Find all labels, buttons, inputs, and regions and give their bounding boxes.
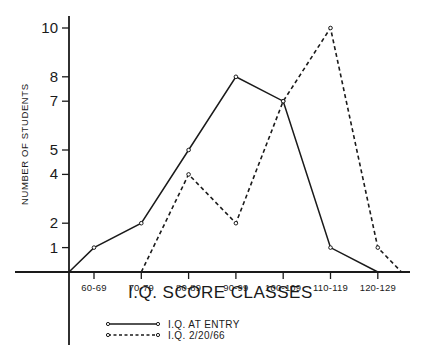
- x-tick-label: 110-119: [313, 282, 348, 293]
- y-axis-ticks: 12457810: [41, 19, 69, 256]
- legend-label: I.Q. 2/20/66: [168, 330, 225, 341]
- x-axis-title: I.Q. SCORE CLASSES: [128, 283, 313, 302]
- legend-marker: [106, 322, 109, 325]
- y-axis-title: NUMBER OF STUDENTS: [19, 83, 30, 205]
- x-tick-label: 120-129: [360, 282, 396, 293]
- y-tick-label: 2: [50, 214, 58, 231]
- line-chart: 12457810 60-6970-7980-8990-99100-109110-…: [0, 0, 422, 354]
- y-tick-label: 5: [50, 141, 58, 158]
- data-point-marker: [329, 246, 333, 250]
- legend-marker: [156, 333, 159, 336]
- series-lines: [69, 26, 401, 272]
- data-point-marker: [329, 26, 333, 30]
- series-line-iq-at-entry: [69, 77, 378, 272]
- x-tick-label: 60-69: [81, 282, 106, 293]
- data-point-marker: [281, 99, 285, 103]
- y-tick-label: 1: [50, 239, 58, 256]
- data-point-marker: [234, 75, 238, 79]
- legend-marker: [156, 322, 159, 325]
- data-point-marker: [234, 221, 238, 225]
- data-point-marker: [187, 173, 191, 177]
- data-point-marker: [92, 246, 96, 250]
- y-tick-label: 8: [50, 68, 58, 85]
- y-tick-label: 4: [50, 165, 58, 182]
- y-tick-label: 10: [41, 19, 58, 36]
- legend-label: I.Q. AT ENTRY: [168, 319, 240, 330]
- legend-marker: [106, 333, 109, 336]
- data-point-marker: [376, 246, 380, 250]
- data-point-marker: [187, 148, 191, 152]
- series-line-iq-2-20-66: [141, 28, 401, 272]
- y-tick-label: 7: [50, 92, 58, 109]
- data-point-marker: [140, 221, 144, 225]
- legend: I.Q. AT ENTRYI.Q. 2/20/66: [106, 319, 239, 341]
